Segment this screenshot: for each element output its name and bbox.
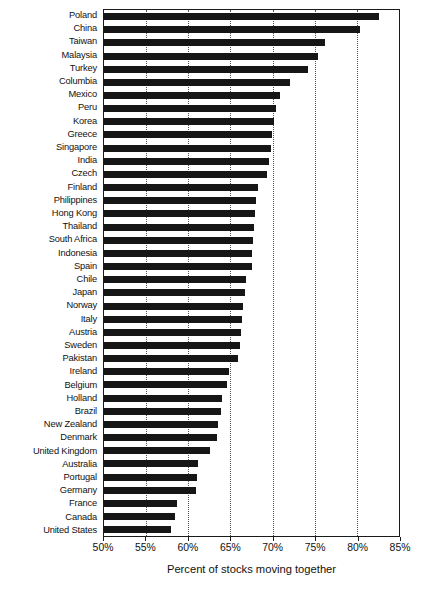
bar-row <box>104 247 399 260</box>
bar-row <box>104 23 399 36</box>
bar-row <box>104 392 399 405</box>
bar <box>104 289 245 296</box>
bar <box>104 105 276 112</box>
category-label: Poland <box>0 9 100 22</box>
bar <box>104 316 242 323</box>
bar <box>104 368 229 375</box>
bar-row <box>104 142 399 155</box>
bar <box>104 487 196 494</box>
x-tick-mark <box>230 537 231 541</box>
bar-row <box>104 221 399 234</box>
category-label: Denmark <box>0 432 100 445</box>
x-tick-mark <box>103 537 104 541</box>
bar-row <box>104 444 399 457</box>
x-tick-label: 50% <box>93 542 114 553</box>
bar-row <box>104 76 399 89</box>
x-tick-mark <box>358 537 359 541</box>
x-tick-label: 65% <box>220 542 241 553</box>
x-tick-mark <box>145 537 146 541</box>
category-label: Belgium <box>0 379 100 392</box>
bar <box>104 39 325 46</box>
category-label: Czech <box>0 167 100 180</box>
category-label: Thailand <box>0 220 100 233</box>
bar <box>104 66 308 73</box>
x-tick-mark <box>315 537 316 541</box>
bar-row <box>104 510 399 523</box>
bar-row <box>104 260 399 273</box>
category-label: Columbia <box>0 75 100 88</box>
bar <box>104 26 360 33</box>
category-label: South Africa <box>0 233 100 246</box>
category-label: Greece <box>0 128 100 141</box>
bar-row <box>104 365 399 378</box>
x-tick-label: 55% <box>135 542 156 553</box>
bar <box>104 342 240 349</box>
bar-row <box>104 49 399 62</box>
bar-row <box>104 313 399 326</box>
bar-row <box>104 378 399 391</box>
category-label: Austria <box>0 326 100 339</box>
bar <box>104 171 267 178</box>
x-tick-mark <box>273 537 274 541</box>
category-label: Germany <box>0 484 100 497</box>
x-tick-mark <box>188 537 189 541</box>
bar-series <box>104 10 399 536</box>
category-axis-labels: PolandChinaTaiwanMalaysiaTurkeyColumbiaM… <box>0 9 100 537</box>
category-label: China <box>0 22 100 35</box>
category-label: Philippines <box>0 194 100 207</box>
bar-row <box>104 102 399 115</box>
bar-row <box>104 418 399 431</box>
bar <box>104 158 269 165</box>
bar-row <box>104 89 399 102</box>
category-label: Australia <box>0 458 100 471</box>
bar <box>104 13 379 20</box>
bar <box>104 250 252 257</box>
bar <box>104 447 210 454</box>
bar-row <box>104 63 399 76</box>
bar-row <box>104 168 399 181</box>
category-label: Hong Kong <box>0 207 100 220</box>
category-label: Brazil <box>0 405 100 418</box>
category-label: United States <box>0 524 100 537</box>
x-tick-label: 80% <box>347 542 368 553</box>
bar-row <box>104 128 399 141</box>
bar-row <box>104 523 399 536</box>
bar-row <box>104 10 399 23</box>
bar <box>104 421 218 428</box>
category-label: Indonesia <box>0 247 100 260</box>
bar-chart: PolandChinaTaiwanMalaysiaTurkeyColumbiaM… <box>0 0 425 593</box>
bar <box>104 513 175 520</box>
bar <box>104 210 255 217</box>
category-label: Peru <box>0 101 100 114</box>
category-label: Taiwan <box>0 35 100 48</box>
bar <box>104 500 177 507</box>
x-tick-label: 70% <box>262 542 283 553</box>
category-label: Malaysia <box>0 49 100 62</box>
bar-row <box>104 405 399 418</box>
bar <box>104 329 241 336</box>
category-label: Sweden <box>0 339 100 352</box>
bar <box>104 237 253 244</box>
category-label: Spain <box>0 260 100 273</box>
bar <box>104 474 197 481</box>
bar <box>104 276 246 283</box>
bar <box>104 184 258 191</box>
bar <box>104 224 254 231</box>
bar-row <box>104 207 399 220</box>
x-tick-label: 60% <box>177 542 198 553</box>
bar <box>104 145 271 152</box>
bar-row <box>104 234 399 247</box>
plot-area <box>103 9 400 537</box>
category-label: New Zealand <box>0 418 100 431</box>
bar-row <box>104 470 399 483</box>
bar-row <box>104 36 399 49</box>
bar-row <box>104 352 399 365</box>
x-tick-label: 85% <box>390 542 411 553</box>
category-label: Holland <box>0 392 100 405</box>
bar-row <box>104 431 399 444</box>
bar <box>104 434 217 441</box>
bar <box>104 395 222 402</box>
bar-row <box>104 457 399 470</box>
bar <box>104 355 238 362</box>
category-label: Korea <box>0 115 100 128</box>
